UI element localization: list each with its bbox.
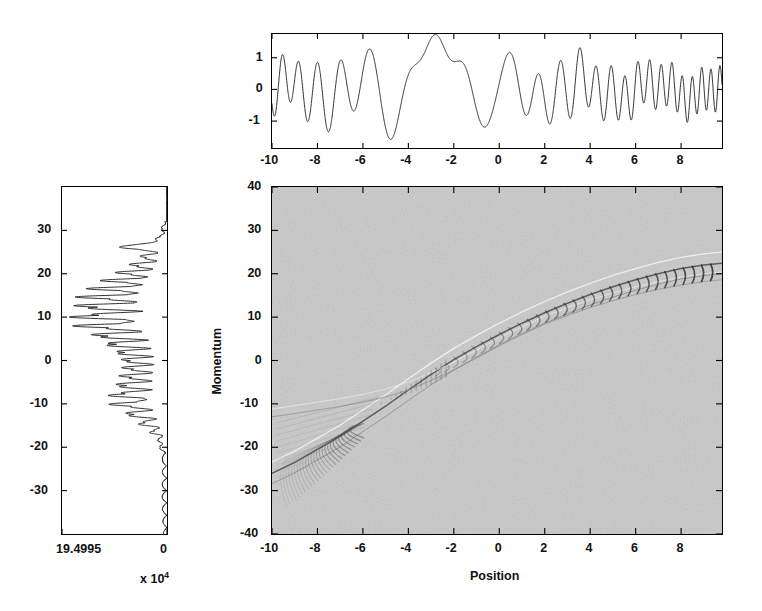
position-panel-xtick-9: 8 — [676, 154, 683, 167]
momentum-panel-ytick-4: 10 — [37, 310, 51, 323]
position-wavefunction-plot — [272, 34, 722, 148]
momentum-panel-ytick-3: 0 — [45, 354, 52, 367]
wigner-panel-xtick-7: 4 — [586, 542, 593, 555]
wigner-panel-ytick-6: 20 — [247, 267, 261, 280]
wigner-panel-xtick-9: 8 — [676, 542, 683, 555]
wigner-panel-ytick-2: -20 — [240, 440, 258, 453]
momentum-panel-ytick-1: -20 — [30, 440, 48, 453]
position-panel-ytick-2: 1 — [256, 51, 263, 64]
position-wavefunction-panel — [271, 33, 723, 149]
left-axis-exponent: x 104 — [140, 570, 169, 586]
momentum-panel-ytick-2: -10 — [30, 397, 48, 410]
wigner-panel-xtick-6: 2 — [540, 542, 547, 555]
momentum-panel-ytick-0: -30 — [30, 484, 48, 497]
position-panel-xtick-8: 6 — [631, 154, 638, 167]
position-panel-xtick-1: -8 — [309, 154, 320, 167]
wigner-phase-space-plot — [272, 187, 722, 534]
position-panel-xtick-3: -4 — [400, 154, 411, 167]
wigner-panel-xtick-4: -2 — [446, 542, 457, 555]
position-axis-title: Position — [470, 570, 519, 583]
wigner-panel-ytick-5: 10 — [247, 310, 261, 323]
wigner-panel-xtick-5: 0 — [495, 542, 502, 555]
wigner-panel-ytick-8: 40 — [247, 180, 261, 193]
wigner-panel-ytick-0: -40 — [240, 527, 258, 540]
wigner-panel-xtick-1: -8 — [309, 542, 320, 555]
left-axis-exponent-prefix: x 10 — [140, 572, 164, 586]
momentum-panel-ytick-5: 20 — [37, 267, 51, 280]
wigner-panel-xtick-3: -4 — [400, 542, 411, 555]
position-panel-xtick-0: -10 — [260, 154, 278, 167]
left-xmax-label: 0 — [160, 543, 167, 556]
wigner-panel-ytick-1: -30 — [240, 484, 258, 497]
wigner-panel-xtick-2: -6 — [355, 542, 366, 555]
position-panel-xtick-5: 0 — [495, 154, 502, 167]
position-panel-xtick-4: -2 — [446, 154, 457, 167]
momentum-axis-title: Momentum — [211, 324, 224, 398]
wigner-panel-ytick-7: 30 — [247, 223, 261, 236]
position-panel-xtick-2: -6 — [355, 154, 366, 167]
wigner-panel-xtick-8: 6 — [631, 542, 638, 555]
figure-canvas: -10-8-6-4-202468 -101 -30-20-100102030 1… — [0, 0, 762, 611]
position-panel-ytick-0: -1 — [249, 114, 260, 127]
wigner-phase-space-panel — [271, 186, 723, 535]
momentum-distribution-panel — [61, 186, 168, 535]
wigner-panel-xtick-0: -10 — [260, 542, 278, 555]
position-panel-xtick-6: 2 — [540, 154, 547, 167]
momentum-panel-ytick-6: 30 — [37, 223, 51, 236]
wigner-panel-ytick-3: -10 — [240, 397, 258, 410]
position-panel-ytick-1: 0 — [256, 82, 263, 95]
wigner-panel-ytick-4: 0 — [255, 354, 262, 367]
position-panel-xtick-7: 4 — [586, 154, 593, 167]
left-xmin-label: 19.4995 — [56, 543, 101, 556]
left-axis-exponent-power: 4 — [164, 570, 169, 580]
momentum-distribution-plot — [62, 187, 167, 534]
